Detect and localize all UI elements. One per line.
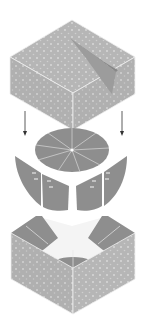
bottom-box	[11, 216, 135, 314]
panel-right-inner	[76, 173, 102, 211]
panel-right-outer	[104, 156, 127, 206]
arrow-left	[23, 111, 27, 136]
disc-insert	[35, 128, 109, 172]
top-box	[10, 20, 135, 130]
arrow-down-icon	[120, 131, 124, 136]
arrow-right	[120, 111, 124, 136]
panel-left-outer	[15, 156, 41, 206]
exploded-box-diagram	[0, 0, 147, 326]
arrow-down-icon	[23, 131, 27, 136]
panel-left-inner	[42, 174, 69, 211]
